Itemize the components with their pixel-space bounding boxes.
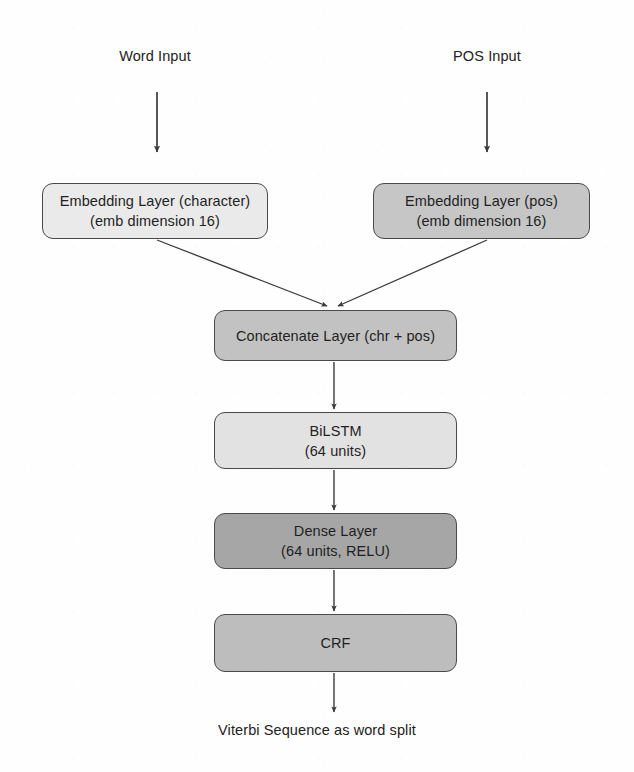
- label-word-input: Word Input: [75, 48, 235, 64]
- node-embedding-character-line-2: (emb dimension 16): [90, 211, 220, 231]
- node-concatenate-line-1: Concatenate Layer (chr + pos): [236, 326, 435, 346]
- node-bilstm-line-2: (64 units): [305, 441, 366, 461]
- edge-embedding-pos-to-concatenate: [338, 240, 487, 306]
- node-dense-layer[interactable]: Dense Layer (64 units, RELU): [214, 513, 457, 569]
- node-embedding-pos-line-2: (emb dimension 16): [417, 211, 547, 231]
- label-output-viterbi-sequence: Viterbi Sequence as word split: [157, 722, 477, 738]
- node-crf[interactable]: CRF: [214, 614, 457, 672]
- node-concatenate-layer[interactable]: Concatenate Layer (chr + pos): [214, 310, 457, 361]
- node-embedding-pos-line-1: Embedding Layer (pos): [405, 191, 558, 211]
- node-dense-line-2: (64 units, RELU): [281, 541, 390, 561]
- node-embedding-layer-character[interactable]: Embedding Layer (character) (emb dimensi…: [42, 183, 268, 239]
- node-crf-line-1: CRF: [320, 633, 350, 653]
- edge-embedding-character-to-concatenate: [157, 240, 327, 306]
- label-pos-input: POS Input: [407, 48, 567, 64]
- node-embedding-layer-pos[interactable]: Embedding Layer (pos) (emb dimension 16): [373, 183, 590, 239]
- node-dense-line-1: Dense Layer: [294, 521, 377, 541]
- node-bilstm-line-1: BiLSTM: [309, 421, 361, 441]
- node-embedding-character-line-1: Embedding Layer (character): [60, 191, 251, 211]
- diagram-canvas: Word Input POS Input Embedding Layer (ch…: [0, 0, 634, 772]
- node-bilstm[interactable]: BiLSTM (64 units): [214, 412, 457, 469]
